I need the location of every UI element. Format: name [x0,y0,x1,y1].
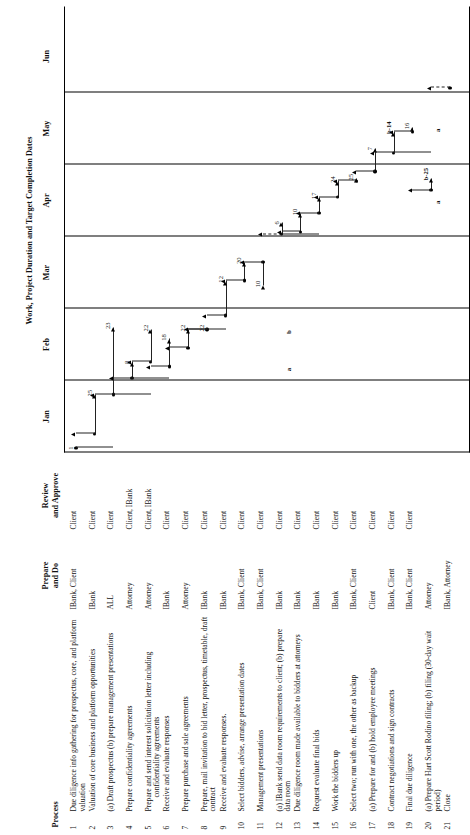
row-number: 10 [238,815,247,829]
arrow-up-icon [221,279,225,283]
milestone-label: 6 [274,221,281,224]
row-number: 6 [163,815,172,829]
arrow-up-icon [389,130,393,134]
milestone-label: 23 [105,322,112,329]
milestone-label: 1 [68,446,75,449]
row-prepare-and-do: Client [369,535,378,609]
row-number: 19 [406,815,415,829]
table-row: 6Receive and evaluate responsesIBankClie… [163,455,181,835]
dependency-link [95,393,114,394]
row-review-and-approve: Client [163,457,172,529]
table-row: 19Final due diligenceIBank, ClientClient [406,455,424,835]
table-row: 21CloseIBank, Attorney [444,455,462,835]
arrow-up-icon [184,328,188,332]
row-number: 13 [294,815,303,829]
table-row: 4Prepare confidentiality agreementsAttor… [126,455,144,835]
row-review-and-approve: Client [238,457,247,529]
rotated-figure: Process Prepare and Do Review and Approv… [0,0,470,835]
dependency-link [319,196,338,197]
table-row: 16Select two; run with one, the other as… [350,455,368,835]
row-prepare-and-do: IBank [201,535,210,609]
dependency-link [113,377,132,378]
task-bar [113,327,114,394]
table-row: 20(a) Prepare Hart Scott Rodino filing; … [425,455,443,835]
dependency-link [394,131,413,132]
row-review-and-approve: Client [332,457,341,529]
dependency-link [282,230,301,231]
row-process-description: Prepare confidentiality agreements [126,615,135,811]
row-process-description: (a) Prepare Hart Scott Rodino filing; (b… [425,615,442,811]
chart-plot-area: 125238221822221220106101724257b-1416b-25… [64,6,470,452]
row-process-description: Management presentations [257,615,266,811]
column-header-review-line1: Review [41,460,50,530]
table-row: 9Receive and evaluate responses.IBankCli… [220,455,238,835]
dependency-link [207,314,226,315]
row-process-description: Receive and evaluate responses. [220,615,229,811]
row-number: 14 [313,815,322,829]
dependency-link [113,393,150,394]
table-row: 10Select bidders, advise, arrange presen… [238,455,256,835]
arrow-up-icon [333,179,337,183]
row-process-subline: confidentiality agreements [153,615,162,811]
table-row: 12(a) IBank send data room requirements … [276,455,294,835]
row-number: 16 [350,815,359,829]
row-review-and-approve: Client [89,457,98,529]
row-process-description: Valuation of core business and platform … [89,615,98,811]
dependency-link [282,233,319,234]
month-label-mar: Mar [42,242,51,302]
dependency-link [132,361,151,362]
dependency-link [226,279,245,280]
table-row: 15Work the bidders upIBankClient [332,455,350,835]
table-row: 7Prepare purchase and sale agreementsAtt… [182,455,200,835]
dependency-link [244,261,263,262]
task-bar [263,262,264,285]
row-prepare-and-do: IBank, Attorney [444,535,453,609]
row-review-and-approve: Client [257,457,266,529]
row-review-and-approve: Client [369,457,378,529]
month-label-jun: Jun [42,26,51,86]
row-review-and-approve: Client [313,457,322,529]
dependency-link [132,377,169,378]
row-review-and-approve: Client, IBank [145,457,154,529]
row-number: 11 [257,815,266,829]
table-row: 17(a) Prepare for and (b) hold employee … [369,455,387,835]
row-process-description: Prepare purchase and sale agreements [182,615,191,811]
arrow-up-icon [427,86,431,90]
month-label-jan: Jan [42,386,51,446]
dependency-link [151,365,170,366]
column-header-prepare-line2: and Do [51,540,60,610]
arrow-up-icon [296,211,300,215]
arrow-up-icon [240,260,244,264]
phase-marker-label: a [435,200,442,204]
column-header-review: Review and Approve [41,460,60,530]
table-row: 18Contract negotiations and sign contrac… [388,455,406,835]
table-row: 13Due diligence room made available to b… [294,455,312,835]
row-prepare-and-do: ALL [107,535,116,609]
row-review-and-approve: Client [220,457,229,529]
table-row: 5Prepare and send interest solicitation … [145,455,163,835]
phase-marker-label: b [286,330,293,334]
row-review-and-approve: Client [201,457,210,529]
arrow-up-icon [258,232,262,236]
table-row: 2Valuation of core business and platform… [89,455,107,835]
row-review-and-approve: Client [406,457,415,529]
row-process-description: Contract negotiations and sign contracts [388,615,397,811]
table-row: 3(a) Draft prospectus (b) prepare manage… [107,455,125,835]
row-prepare-and-do: IBank [276,535,285,609]
row-number: 5 [145,815,154,829]
row-number: 12 [276,815,285,829]
milestone-label: 25 [348,173,355,180]
dependency-link-dashed [431,86,450,87]
milestone-label: b-25 [423,167,430,179]
dependency-link [76,433,95,434]
row-process-description: Select bidders, advise, arrange presenta… [238,615,247,811]
dependency-link [394,152,431,153]
row-process-description: Work the bidders up [332,615,341,811]
table-row: 11Management presentationsIBank, ClientC… [257,455,275,835]
row-process-description: Close [444,615,453,811]
phase-marker-label: a [435,128,442,132]
row-review-and-approve: Client [107,457,116,529]
arrow-up-icon [90,393,94,397]
column-header-timeline: Work, Project Duration and Target Comple… [25,8,34,452]
dependency-link [76,446,113,447]
